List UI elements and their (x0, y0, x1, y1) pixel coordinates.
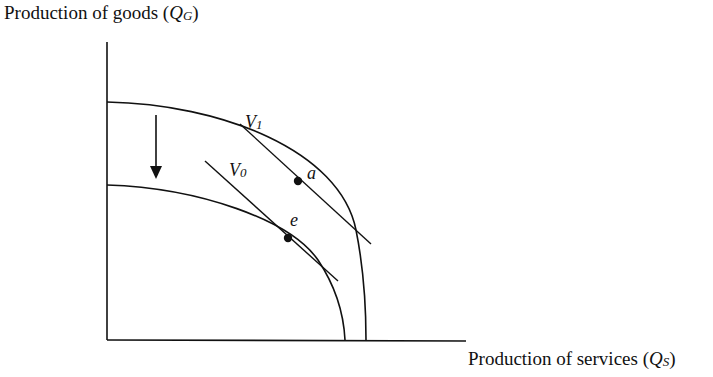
v1-label: V1 (245, 112, 263, 133)
ppf-diagram (0, 0, 713, 377)
outer-ppf-curve (107, 102, 366, 340)
x-axis-label: Production of services (QS) (468, 348, 676, 370)
v0-label-sub: 0 (240, 165, 247, 180)
x-axis-var: Q (649, 348, 663, 369)
point-a (294, 177, 302, 185)
point-a-label: a (307, 163, 316, 184)
v0-label: V0 (229, 160, 247, 181)
v1-label-main: V (245, 112, 256, 132)
inner-ppf-curve (107, 185, 345, 340)
point-e (284, 234, 292, 242)
v0-line (205, 161, 338, 281)
down-arrow-icon (150, 115, 162, 179)
x-axis-label-text: Production of services ( (468, 348, 649, 369)
point-e-label: e (290, 210, 298, 231)
x-axis-close: ) (669, 348, 675, 369)
x-axis (107, 340, 466, 341)
v1-line (240, 124, 371, 244)
v1-label-sub: 1 (256, 117, 263, 132)
v0-label-main: V (229, 160, 240, 180)
